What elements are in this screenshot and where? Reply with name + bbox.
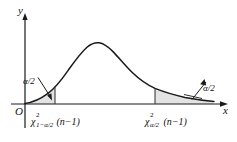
lower-chi-subscript: 1−α/2 (36, 122, 53, 129)
lower-chi-superscript: 2 (36, 112, 40, 119)
chi-square-figure: y x O α/2 α/2 χ21−α/2(n−1) χ2α/2(n−1) (0, 0, 237, 142)
right-tail-alpha-label: α/2 (203, 84, 215, 93)
upper-chi-superscript: 2 (150, 112, 154, 119)
y-axis-label: y (18, 5, 23, 16)
lower-chi-symbol: χ21−α/2 (31, 117, 56, 127)
y-axis-arrowhead-icon (22, 13, 27, 20)
x-axis-label: x (223, 105, 228, 116)
upper-chi-argument: (n−1) (163, 116, 186, 127)
lower-critical-value-label: χ21−α/2(n−1) (31, 117, 80, 127)
left-tail-alpha-label: α/2 (23, 77, 35, 86)
upper-chi-symbol: χ2α/2 (145, 117, 163, 127)
upper-critical-value-label: χ2α/2(n−1) (145, 117, 187, 127)
origin-label: O (15, 106, 23, 117)
left-alpha-pointer-line (38, 78, 51, 98)
upper-chi-base: χ (145, 116, 149, 127)
lower-chi-argument: (n−1) (56, 116, 79, 127)
upper-chi-subscript: α/2 (150, 122, 159, 129)
lower-chi-base: χ (31, 116, 35, 127)
